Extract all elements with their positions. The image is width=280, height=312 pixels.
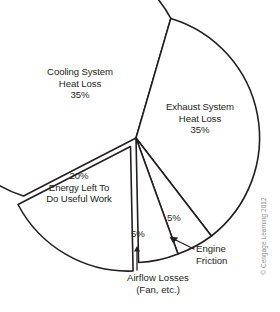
slice-label-percent: 35% — [22, 89, 138, 101]
pie-chart: Cooling System Heat Loss 35% Exhaust Sys… — [0, 0, 280, 312]
callout-label-line2: (Fan, etc.) — [98, 284, 218, 296]
slice-label-line1: Energy Left To — [18, 182, 140, 194]
slice-label-line2: Do Useful Work — [18, 193, 140, 205]
slice-label-cooling-system-heat-loss: Cooling System Heat Loss 35% — [22, 66, 138, 101]
slice-percent-engine-friction: 5% — [167, 212, 181, 223]
callout-label-airflow-losses: Airflow Losses (Fan, etc.) — [98, 272, 218, 295]
callout-label-line2: Friction — [196, 255, 260, 267]
slice-label-exhaust-system-heat-loss: Exhaust System Heat Loss 35% — [146, 101, 254, 136]
slice-label-percent: 20% — [18, 170, 140, 182]
slice-percent-airflow-losses: 5% — [131, 228, 145, 239]
callout-label-line1: Airflow Losses — [98, 272, 218, 284]
slice-label-line1: Exhaust System — [146, 101, 254, 113]
slice-label-line2: Heat Loss — [22, 78, 138, 90]
slice-label-energy-left-to-do-useful-work: 20% Energy Left To Do Useful Work — [18, 170, 140, 205]
callout-label-line1: Engine — [196, 243, 260, 255]
slice-label-line2: Heat Loss — [146, 113, 254, 125]
callout-label-engine-friction: Engine Friction — [196, 243, 260, 266]
slice-label-line1: Cooling System — [22, 66, 138, 78]
copyright-credit: © Cengage Learning 2012 — [260, 194, 268, 278]
slice-label-percent: 35% — [146, 124, 254, 136]
